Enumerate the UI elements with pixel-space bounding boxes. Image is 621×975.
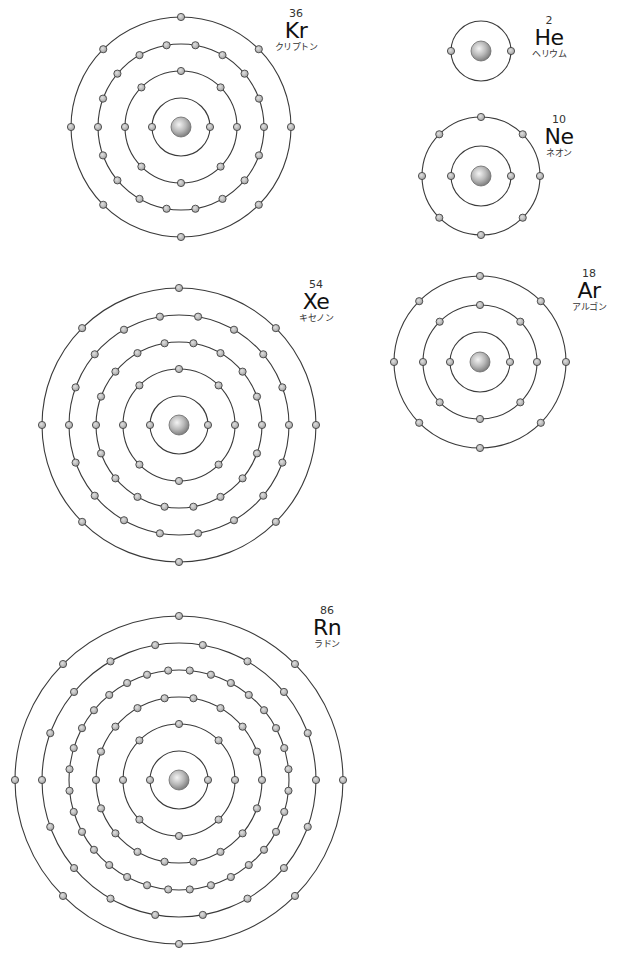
electron	[190, 340, 197, 347]
electron	[146, 776, 153, 783]
electron	[65, 421, 72, 428]
element-symbol: Kr	[256, 20, 336, 42]
electron	[97, 450, 104, 457]
electron	[152, 641, 159, 648]
electron	[199, 911, 206, 918]
nucleus	[169, 415, 189, 435]
electron	[253, 450, 260, 457]
atoms-layer	[11, 13, 569, 947]
electron	[507, 172, 514, 179]
electron	[227, 873, 234, 880]
electron	[390, 358, 397, 365]
electron	[476, 444, 483, 451]
electron	[161, 858, 168, 865]
electron	[477, 113, 484, 120]
electron	[152, 911, 159, 918]
electron	[272, 518, 279, 525]
electron	[206, 123, 213, 130]
nucleus	[471, 166, 491, 186]
electron	[260, 492, 267, 499]
element-symbol: He	[509, 27, 589, 49]
electron	[66, 787, 73, 794]
electron	[204, 421, 211, 428]
electron	[291, 892, 298, 899]
electron	[227, 679, 234, 686]
electron	[165, 886, 172, 893]
electron	[195, 530, 202, 537]
electron	[163, 42, 170, 49]
electron	[230, 517, 237, 524]
electron	[124, 873, 131, 880]
electron	[253, 748, 260, 755]
electron	[519, 214, 526, 221]
electron	[258, 421, 265, 428]
electron	[272, 828, 279, 835]
electron	[161, 503, 168, 510]
electron	[446, 358, 453, 365]
electron	[260, 123, 267, 130]
electron	[436, 399, 443, 406]
atom-xe	[38, 284, 319, 565]
electron	[177, 233, 184, 240]
electron	[506, 358, 513, 365]
electron	[287, 123, 294, 130]
electron	[114, 177, 121, 184]
electron	[241, 177, 248, 184]
element-name-ja: ヘリウム	[509, 50, 589, 59]
electron	[477, 231, 484, 238]
electron	[90, 707, 97, 714]
electron	[91, 351, 98, 358]
electron	[272, 325, 279, 332]
element-name-ja: アルゴン	[549, 303, 621, 312]
electron	[72, 384, 79, 391]
atom-label-ne: 10 Ne ネオン	[519, 114, 599, 158]
nucleus	[471, 41, 491, 61]
electron	[175, 612, 182, 619]
element-symbol: Ar	[549, 280, 621, 302]
electron	[207, 671, 214, 678]
electron	[418, 172, 425, 179]
element-name-ja: キセノン	[276, 314, 356, 323]
electron	[67, 123, 74, 130]
electron	[217, 350, 224, 357]
electron	[285, 421, 292, 428]
electron	[517, 399, 524, 406]
nucleus	[169, 770, 189, 790]
electron	[255, 201, 262, 208]
electron	[78, 828, 85, 835]
element-symbol: Rn	[287, 617, 367, 639]
electron	[245, 691, 252, 698]
electron	[134, 705, 141, 712]
electron	[258, 776, 265, 783]
electron	[138, 84, 145, 91]
electron	[163, 205, 170, 212]
electron	[260, 707, 267, 714]
electron	[416, 419, 423, 426]
electron	[416, 298, 423, 305]
electron	[281, 808, 288, 815]
electron	[136, 737, 143, 744]
electron	[72, 459, 79, 466]
electron	[106, 691, 113, 698]
electron	[119, 421, 126, 428]
electron	[339, 776, 346, 783]
electron	[239, 723, 246, 730]
electron	[241, 70, 248, 77]
electron	[11, 776, 18, 783]
electron	[79, 518, 86, 525]
electron	[112, 723, 119, 730]
electron	[99, 152, 106, 159]
electron	[47, 730, 54, 737]
electron	[112, 830, 119, 837]
electron	[134, 493, 141, 500]
electron	[175, 940, 182, 947]
electron	[91, 492, 98, 499]
electron	[175, 284, 182, 291]
electron	[190, 858, 197, 865]
electron	[219, 195, 226, 202]
electron	[447, 172, 454, 179]
electron	[536, 172, 543, 179]
electron	[239, 368, 246, 375]
electron	[161, 695, 168, 702]
electron	[192, 42, 199, 49]
